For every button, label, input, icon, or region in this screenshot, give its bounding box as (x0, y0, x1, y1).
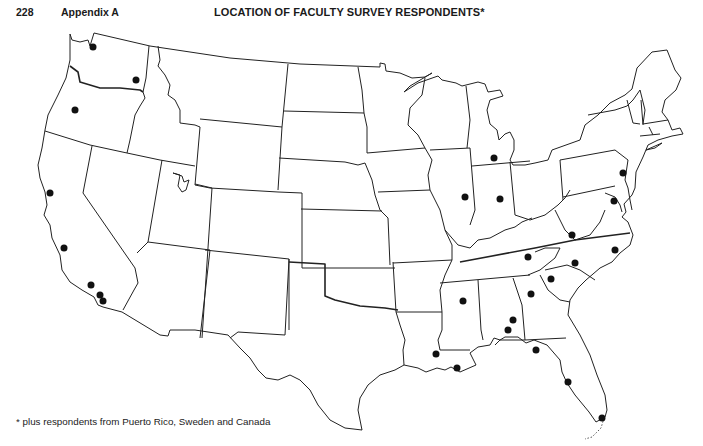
respondent-marker-icon (88, 282, 95, 289)
respondent-marker-icon (462, 194, 469, 201)
respondent-marker-icon (491, 155, 498, 162)
respondent-marker-icon (611, 198, 618, 205)
respondent-marker-icon (433, 351, 440, 358)
respondent-marker-icon (505, 327, 512, 334)
respondent-marker-icon (90, 44, 97, 51)
respondent-marker-icon (133, 77, 140, 84)
respondent-marker-icon (47, 190, 54, 197)
respondent-marker-icon (510, 317, 517, 324)
respondent-marker-icon (497, 196, 504, 203)
respondent-marker-icon (572, 260, 579, 267)
respondent-marker-icon (612, 247, 619, 254)
respondent-marker-icon (620, 170, 627, 177)
respondent-marker-icon (565, 379, 572, 386)
us-states-map (0, 0, 703, 446)
respondent-marker-icon (525, 254, 532, 261)
respondent-marker-icon (72, 107, 79, 114)
footnote: * plus respondents from Puerto Rico, Swe… (16, 416, 270, 427)
respondent-marker-icon (528, 291, 535, 298)
respondent-marker-icon (460, 298, 467, 305)
respondent-marker-icon (533, 347, 540, 354)
us-outline (38, 33, 683, 430)
respondent-marker-icon (100, 298, 107, 305)
respondent-marker-icon (454, 365, 461, 372)
respondent-marker-icon (548, 276, 555, 283)
respondent-marker-icon (569, 232, 576, 239)
respondent-marker-icon (61, 245, 68, 252)
respondent-marker-icon (599, 415, 606, 422)
